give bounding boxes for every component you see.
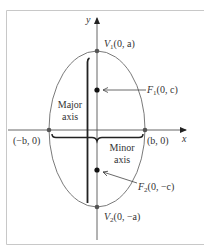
focus-f1-label: F1(0, c) xyxy=(146,84,178,97)
x-axis-label: x xyxy=(181,133,187,144)
vertex-v1-point xyxy=(95,49,100,54)
y-axis-label: y xyxy=(85,14,91,25)
focus-f2-arrow xyxy=(103,172,137,183)
vertex-v2-point xyxy=(95,205,100,210)
vertex-left-point xyxy=(47,128,52,133)
major-axis-label-line2: axis xyxy=(62,111,78,122)
focus-f2-point xyxy=(94,167,99,172)
vertex-v2-label: V2(0, −a) xyxy=(104,211,140,224)
focus-f1-point xyxy=(94,87,99,92)
vertex-v1-label: V1(0, a) xyxy=(104,38,135,51)
minor-axis-brace xyxy=(52,134,143,141)
vertex-right-point xyxy=(143,128,148,133)
vertex-left-label: (−b, 0) xyxy=(13,135,40,147)
minor-axis-label-line2: axis xyxy=(114,154,130,165)
focus-f2-label: F2(0, −c) xyxy=(137,181,174,194)
major-axis-label-line1: Major xyxy=(58,99,83,110)
ellipse-diagram: y x V1(0, a) V2(0, −a) F1(0, c) F2(0, −c… xyxy=(0,0,204,252)
major-axis-bracket xyxy=(88,58,90,203)
minor-axis-label-line1: Minor xyxy=(110,142,136,153)
vertex-right-label: (b, 0) xyxy=(147,135,169,147)
